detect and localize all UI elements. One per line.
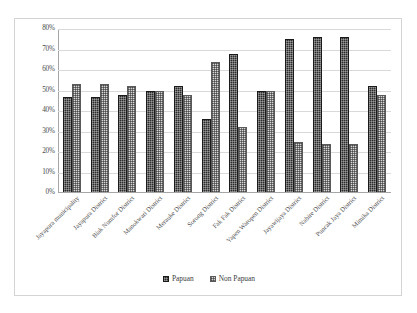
plot-area	[58, 29, 391, 193]
bar-non-papuan	[100, 84, 109, 193]
bar-non-papuan	[211, 62, 220, 193]
bar-non-papuan	[377, 95, 386, 193]
y-axis-tick-label: 70%	[29, 46, 55, 53]
y-axis-tick-label: 10%	[29, 169, 55, 176]
y-axis-tick-label: 40%	[29, 107, 55, 114]
bar-group	[86, 29, 114, 193]
bar-group	[308, 29, 336, 193]
bar-group	[58, 29, 86, 193]
bar-group	[363, 29, 391, 193]
y-axis-tick-label: 60%	[29, 66, 55, 73]
y-axis-tick-label: 20%	[29, 148, 55, 155]
chart-legend: Papuan Non Papuan	[15, 274, 403, 283]
y-axis-tick-label: 80%	[29, 25, 55, 32]
bar-papuan	[146, 91, 155, 194]
bar-non-papuan	[322, 144, 331, 193]
chart-plot-wrapper: 80%70%60%50%40%30%20%10%0% Jayapura muni…	[15, 19, 403, 297]
bar-group	[252, 29, 280, 193]
bar-papuan	[313, 37, 322, 193]
bar-papuan	[257, 91, 266, 194]
bar-group	[141, 29, 169, 193]
legend-item-non-papuan: Non Papuan	[210, 274, 255, 283]
bar-non-papuan	[294, 142, 303, 193]
x-axis-line	[58, 192, 391, 193]
y-axis-tick-labels: 80%70%60%50%40%30%20%10%0%	[27, 19, 55, 297]
bar-group	[197, 29, 225, 193]
bar-papuan	[229, 54, 238, 193]
x-axis-category-labels: Jayapura municipalityJayapura DistrictBi…	[58, 195, 391, 275]
bar-non-papuan	[127, 86, 136, 193]
bar-papuan	[285, 39, 294, 193]
bar-non-papuan	[155, 91, 164, 194]
bar-groups	[58, 29, 391, 193]
bar-papuan	[202, 119, 211, 193]
bar-group	[280, 29, 308, 193]
bar-group	[169, 29, 197, 193]
bar-non-papuan	[183, 95, 192, 193]
chart-frame: 80%70%60%50%40%30%20%10%0% Jayapura muni…	[14, 18, 402, 296]
bar-papuan	[368, 86, 377, 193]
bar-non-papuan	[72, 84, 81, 193]
bar-non-papuan	[238, 127, 247, 193]
bar-papuan	[174, 86, 183, 193]
y-axis-tick-label: 0%	[29, 189, 55, 196]
bar-group	[336, 29, 364, 193]
legend-swatch-papuan	[163, 276, 169, 282]
legend-label-non-papuan: Non Papuan	[219, 274, 255, 283]
bar-non-papuan	[266, 91, 275, 194]
bar-non-papuan	[349, 144, 358, 193]
bar-papuan	[118, 95, 127, 193]
bar-papuan	[63, 97, 72, 193]
y-axis-tick-label: 50%	[29, 87, 55, 94]
legend-item-papuan: Papuan	[163, 274, 194, 283]
legend-swatch-non-papuan	[210, 276, 216, 282]
bar-papuan	[340, 37, 349, 193]
legend-label-papuan: Papuan	[172, 274, 194, 283]
bar-group	[114, 29, 142, 193]
bar-group	[225, 29, 253, 193]
y-axis-tick-label: 30%	[29, 128, 55, 135]
bar-papuan	[91, 97, 100, 193]
